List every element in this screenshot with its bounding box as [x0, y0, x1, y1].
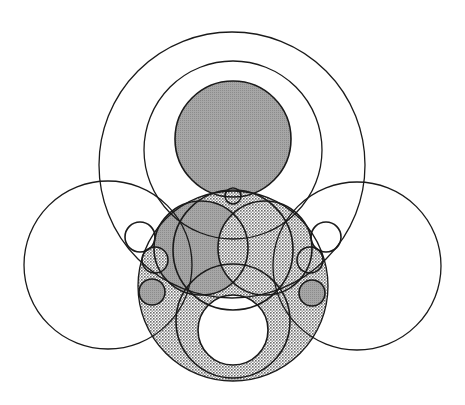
diagram-canvas — [0, 0, 465, 405]
circle-diagram — [0, 0, 465, 405]
circle-group — [24, 32, 441, 381]
